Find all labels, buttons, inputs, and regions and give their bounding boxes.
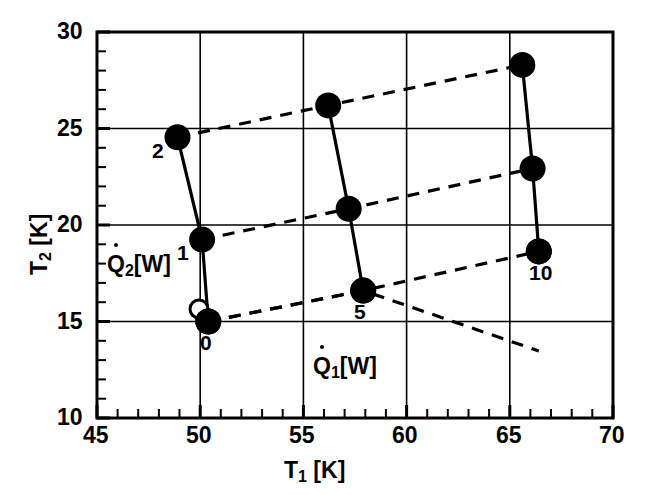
data-point [520,156,546,182]
y-tick-label-30: 30 [57,20,83,43]
plot-canvas [0,0,654,495]
y-tick-label-10: 10 [57,406,83,429]
y-tick-label-20: 20 [57,213,83,236]
x-tick-label-70: 70 [599,424,625,447]
q2-letter: Q [107,251,125,277]
data-point [315,92,341,118]
y-tick-label-15: 15 [57,310,83,333]
x-tick-label-50: 50 [186,424,212,447]
point-label-5: 5 [354,301,366,322]
data-point [189,227,215,253]
point-label-2: 2 [152,140,164,161]
point-label-0: 0 [200,332,212,353]
x-tick-label-45: 45 [83,424,109,447]
y-tick-label-25: 25 [57,117,83,140]
x-axis-title-sub: 1 [298,468,307,485]
q1-unit: [W] [340,353,377,379]
point-label-1: 1 [177,242,189,263]
chart-figure: 30 25 20 15 10 45 50 55 60 65 70 T1 [K] … [0,0,654,495]
q1-letter: Q [313,353,331,379]
x-tick-label-55: 55 [289,424,315,447]
q1-annotation: Q1[W] [313,355,377,381]
data-point [165,124,191,150]
q2-symbol: Q [107,253,125,276]
x-axis-title-main: T [284,457,298,483]
data-point [336,196,362,222]
y-axis-title-sub: 2 [37,252,54,261]
data-point [509,52,535,78]
y-axis-title-unit-space [26,246,52,252]
x-axis-title: T1 [K] [284,459,345,485]
y-axis-title-main: T [26,261,52,275]
q1-symbol: Q [313,355,331,378]
x-axis-title-unit: [K] [313,457,345,483]
x-tick-label-60: 60 [392,424,418,447]
q2-sub: 2 [125,262,134,279]
q2-annotation: Q2[W] [107,253,171,279]
y-axis-title: T2 [K] [28,214,54,275]
x-tick-label-65: 65 [496,424,522,447]
point-label-10: 10 [529,262,552,283]
y-axis-title-unit: [K] [26,214,52,246]
q1-sub: 1 [331,364,340,381]
q2-unit: [W] [134,251,171,277]
